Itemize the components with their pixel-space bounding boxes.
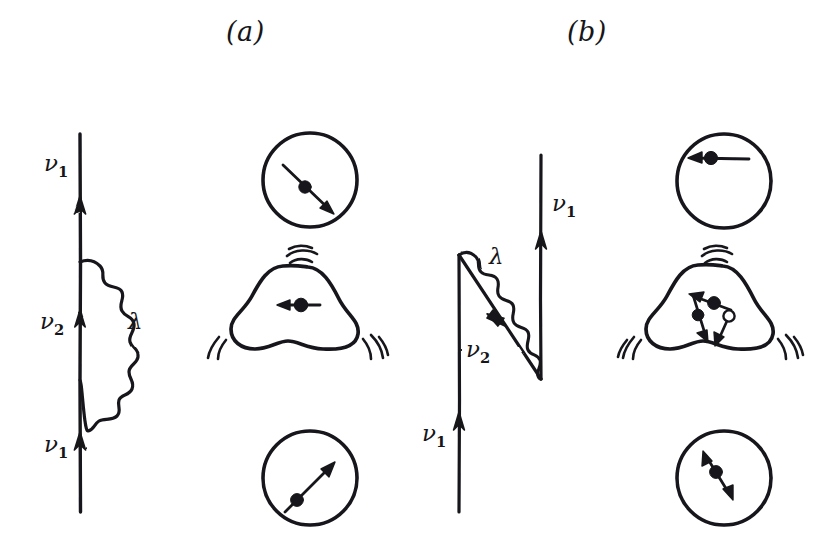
panel-b-fermion-line-left [459, 255, 460, 512]
vibration-lines-top [702, 246, 732, 263]
vibration-lines-top [287, 246, 317, 263]
circle-outline [263, 431, 357, 525]
nu-glyph: ν [552, 190, 566, 216]
spin-arrow-3-open-dot [723, 310, 734, 321]
panel-a-nucleus-spherical-bottom [263, 431, 357, 525]
panel-a-label-nu2: ν2 [40, 308, 64, 338]
filled-dot-marker [291, 494, 304, 507]
spin-arrow-head [688, 152, 702, 163]
nu-subscript: 1 [436, 433, 446, 450]
nu-glyph: ν [466, 336, 480, 362]
nu-glyph: ν [44, 431, 58, 457]
vibration-lines-bottom-right [363, 335, 388, 359]
spin-arrow-1-filled-dot [708, 297, 721, 310]
panel-b-label-nu1-bottom: ν1 [422, 420, 446, 450]
panel-label-a: (a) [226, 16, 265, 47]
nu-subscript: 2 [480, 349, 490, 366]
filled-dot-marker [710, 466, 723, 479]
panel-a-label-nu1-bottom: ν1 [44, 431, 68, 461]
nu-glyph: ν [44, 150, 58, 176]
panel-b-diagram [454, 155, 547, 512]
figure-root: (a) (b) ν1 ν2 ν1 λ ν1 ν2 ν1 λ [0, 0, 828, 550]
filled-dot-marker [294, 298, 308, 312]
nu-subscript: 1 [566, 203, 576, 220]
panel-b-label-lambda: λ [489, 243, 504, 269]
panel-b-label-nu2: ν2 [466, 336, 490, 366]
nu-glyph: ν [40, 308, 54, 334]
spin-arrow-head [277, 300, 290, 310]
circle-outline [263, 133, 357, 227]
panel-b-fermion-line-right [541, 155, 542, 379]
panel-b-nucleus-spherical-bottom [677, 431, 771, 525]
panel-b-nucleus-spherical-top [677, 134, 771, 228]
nu-subscript: 1 [58, 163, 68, 180]
panel-a-boson-wave [80, 260, 138, 431]
panel-a-nucleus-spherical-top [263, 133, 357, 227]
figure-canvas [0, 0, 828, 550]
panel-a-nucleus-deformed-middle [208, 246, 388, 359]
vibration-lines-bottom-left [208, 337, 226, 359]
panel-a-label-lambda: λ [128, 308, 143, 334]
filled-dot-marker [299, 181, 311, 193]
panel-b-label-nu1-top: ν1 [552, 190, 576, 220]
vibration-lines-bottom-left [618, 337, 641, 359]
panel-a-label-nu1-top: ν1 [44, 150, 68, 180]
panel-b-nucleus-deformed-middle [618, 246, 803, 359]
nu-subscript: 1 [58, 444, 68, 461]
circle-outline [677, 431, 771, 525]
circle-outline [677, 134, 771, 228]
vibration-lines-bottom-right [778, 335, 803, 359]
panel-label-b: (b) [567, 16, 607, 47]
spin-arrow-2-filled-dot [692, 309, 704, 321]
nu-subscript: 2 [54, 321, 64, 338]
filled-dot-marker [704, 151, 717, 164]
nu-glyph: ν [422, 420, 436, 446]
